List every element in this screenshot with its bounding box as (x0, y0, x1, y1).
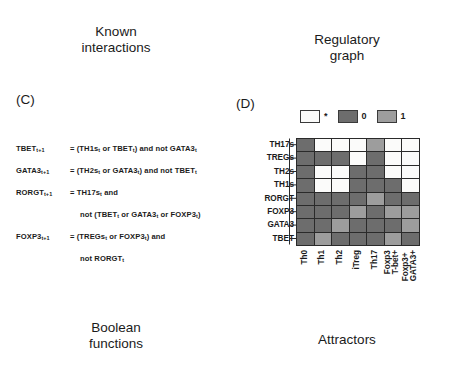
heatmap-cell (297, 152, 315, 165)
boolean-equation: TBETt+1= (TH1st or TBETt) and not GATA3t (16, 144, 240, 153)
equation-expression: = (TREGst or FOXP3t) and (70, 232, 240, 241)
heatmap-row-label: RORGT (252, 192, 294, 205)
heatmap-row (297, 152, 420, 165)
heatmap-cell (314, 205, 332, 218)
heatmap-cell (332, 152, 350, 165)
heatmap-cell (384, 139, 402, 152)
heatmap-cell (367, 139, 385, 152)
heatmap-cell (314, 152, 332, 165)
heatmap-row-label: FOXP3 (252, 205, 294, 218)
heatmap-cell (314, 179, 332, 192)
heatmap-legend: *01 (300, 110, 406, 123)
row-bracket-marks (289, 138, 296, 245)
equation-continuation: not RORGTt (16, 254, 240, 263)
heatmap-cell (367, 219, 385, 232)
heatmap-cell (384, 232, 402, 245)
heatmap-row-labels: TH17sTREGsTH2sTH1sRORGTFOXP3GATA3TBET (252, 138, 294, 245)
heatmap-column-label: Th0 (296, 248, 314, 302)
heatmap-row (297, 232, 420, 245)
heatmap-row-label: GATA3 (252, 218, 294, 231)
heatmap-cell (402, 205, 420, 218)
heatmap-cell (314, 139, 332, 152)
panel-letter-d: (D) (236, 96, 255, 111)
equation-target: GATA3t+1 (16, 166, 70, 175)
heatmap-cell (332, 192, 350, 205)
heatmap-row (297, 179, 420, 192)
heatmap-cell (349, 165, 367, 178)
heatmap-cell (367, 205, 385, 218)
heatmap-cell (402, 192, 420, 205)
heatmap-cell (297, 179, 315, 192)
heatmap-row (297, 165, 420, 178)
heatmap-cell (384, 192, 402, 205)
heatmap-cell (332, 179, 350, 192)
legend-swatch (377, 110, 397, 123)
regulatory-graph-caption: Regulatory graph (272, 32, 422, 64)
heatmap-cell (402, 219, 420, 232)
heatmap-row-label: TREGs (252, 151, 294, 164)
heatmap-column-label-text: Th2 (336, 250, 344, 265)
heatmap-cell (402, 152, 420, 165)
legend-label: * (324, 112, 328, 121)
heatmap-cell (332, 139, 350, 152)
heatmap-cell (349, 179, 367, 192)
equation-expression: = (TH2st or GATA3t) and not TBETt (70, 166, 240, 175)
heatmap-cell (367, 152, 385, 165)
heatmap-column-labels: Th0Th1Th2iTregTh17Foxp3 T-bet+Foxp3+ GAT… (296, 248, 419, 302)
equation-expression: = TH17st and (70, 188, 240, 197)
panel-letter-c: (C) (16, 92, 35, 107)
heatmap-column-label: Th17 (366, 248, 384, 302)
heatmap-cell (349, 219, 367, 232)
heatmap-cell (314, 192, 332, 205)
attractors-heatmap (296, 138, 420, 246)
heatmap-cell (314, 165, 332, 178)
heatmap-column-label-text: Th0 (301, 250, 309, 265)
heatmap-row-label: TH17s (252, 138, 294, 151)
heatmap-cell (367, 192, 385, 205)
equation-expression: = (TH1st or TBETt) and not GATA3t (70, 144, 240, 153)
heatmap-row (297, 192, 420, 205)
equation-target: FOXP3t+1 (16, 232, 70, 241)
equation-target: RORGTt+1 (16, 188, 70, 197)
boolean-functions-block: TBETt+1= (TH1st or TBETt) and not GATA3t… (16, 144, 240, 276)
heatmap-cell (402, 165, 420, 178)
heatmap-cell (367, 165, 385, 178)
heatmap-cell (297, 232, 315, 245)
equation-target: TBETt+1 (16, 144, 70, 153)
boolean-functions-caption: Boolean functions (36, 320, 196, 352)
boolean-equation: RORGTt+1= TH17st and (16, 188, 240, 197)
heatmap-cell (297, 219, 315, 232)
heatmap-cell (384, 219, 402, 232)
heatmap-row-label: TBET (252, 232, 294, 245)
heatmap-cell (402, 179, 420, 192)
known-interactions-caption: Known interactions (36, 24, 196, 56)
heatmap-column-label: Foxp3+ GATA3+ (401, 248, 419, 302)
legend-swatch (300, 110, 320, 123)
heatmap-cell (297, 192, 315, 205)
heatmap-cell (384, 152, 402, 165)
heatmap-column-label: Th1 (314, 248, 332, 302)
heatmap-cell (297, 205, 315, 218)
heatmap-row-label: TH1s (252, 178, 294, 191)
boolean-equation: GATA3t+1= (TH2st or GATA3t) and not TBET… (16, 166, 240, 175)
heatmap-column-label: Th2 (331, 248, 349, 302)
heatmap-cell (349, 205, 367, 218)
heatmap-column-label-text: Th17 (371, 250, 379, 269)
heatmap-cell (349, 232, 367, 245)
heatmap-row (297, 219, 420, 232)
heatmap-cell (384, 179, 402, 192)
heatmap-cell (297, 165, 315, 178)
heatmap-cell (332, 219, 350, 232)
heatmap-cell (384, 205, 402, 218)
heatmap-cell (367, 232, 385, 245)
heatmap-row (297, 139, 420, 152)
heatmap-grid (296, 138, 420, 246)
heatmap-cell (402, 232, 420, 245)
legend-item: 1 (377, 110, 406, 123)
legend-label: 1 (401, 112, 406, 121)
heatmap-cell (332, 205, 350, 218)
heatmap-cell (314, 232, 332, 245)
attractors-caption: Attractors (272, 332, 422, 348)
heatmap-column-label-text: Foxp3 T-bet+ (384, 250, 401, 274)
heatmap-column-label-text: iTreg (353, 250, 361, 270)
